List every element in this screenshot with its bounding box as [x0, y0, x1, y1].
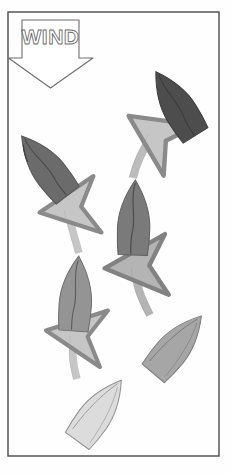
tacking-diagram: WIND [0, 0, 231, 474]
figure-root: WIND [0, 0, 231, 474]
wind-label: WIND [22, 25, 80, 48]
